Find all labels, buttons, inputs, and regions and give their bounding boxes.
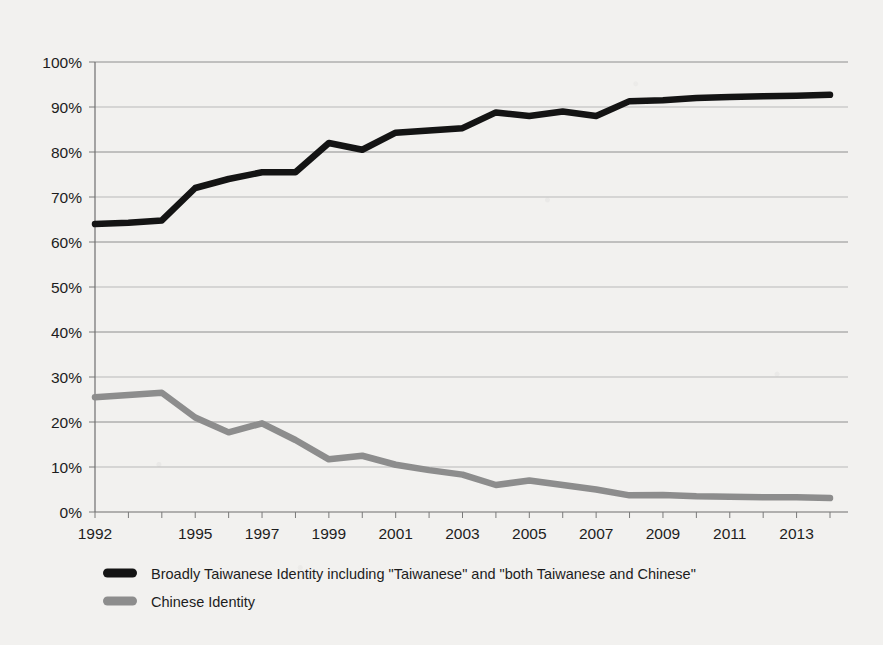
series-line-taiwanese-identity xyxy=(95,95,830,224)
y-tick-marks-group xyxy=(89,62,95,512)
legend-swatch xyxy=(103,597,137,606)
y-axis-tick-label: 30% xyxy=(51,369,82,386)
y-axis-tick-label: 20% xyxy=(51,414,82,431)
x-axis-tick-labels: 1992199519971999200120032005200720092011… xyxy=(78,525,814,542)
data-series-group xyxy=(95,95,830,498)
x-axis-tick-label: 2013 xyxy=(779,525,813,542)
y-axis-tick-label: 80% xyxy=(51,144,82,161)
x-axis-tick-label: 1999 xyxy=(312,525,346,542)
y-axis-tick-label: 60% xyxy=(51,234,82,251)
legend-swatch xyxy=(103,569,137,578)
chart-legend: Broadly Taiwanese Identity including "Ta… xyxy=(103,566,696,610)
y-axis-tick-label: 70% xyxy=(51,189,82,206)
y-axis-tick-label: 100% xyxy=(42,54,82,71)
line-chart-figure: 0%10%20%30%40%50%60%70%80%90%100% 199219… xyxy=(0,0,883,645)
x-axis-tick-label: 1992 xyxy=(78,525,112,542)
x-axis-tick-label: 2003 xyxy=(445,525,479,542)
y-axis-tick-label: 0% xyxy=(60,504,83,521)
legend-label: Broadly Taiwanese Identity including "Ta… xyxy=(151,566,696,582)
y-axis-tick-label: 10% xyxy=(51,459,82,476)
x-axis-tick-label: 1995 xyxy=(178,525,212,542)
x-axis-group xyxy=(95,62,848,518)
y-axis-tick-label: 90% xyxy=(51,99,82,116)
x-axis-tick-label: 1997 xyxy=(245,525,279,542)
y-axis-tick-label: 50% xyxy=(51,279,82,296)
x-axis-tick-label: 2007 xyxy=(579,525,613,542)
series-line-chinese-identity xyxy=(95,393,830,498)
x-axis-tick-label: 2011 xyxy=(713,525,746,542)
x-axis-tick-label: 2009 xyxy=(646,525,680,542)
y-axis-tick-labels: 0%10%20%30%40%50%60%70%80%90%100% xyxy=(42,54,82,521)
legend-label: Chinese Identity xyxy=(151,594,256,610)
chart-svg: 0%10%20%30%40%50%60%70%80%90%100% 199219… xyxy=(0,0,883,645)
y-axis-tick-label: 40% xyxy=(51,324,82,341)
x-axis-tick-label: 2001 xyxy=(378,525,412,542)
x-axis-tick-label: 2005 xyxy=(512,525,546,542)
